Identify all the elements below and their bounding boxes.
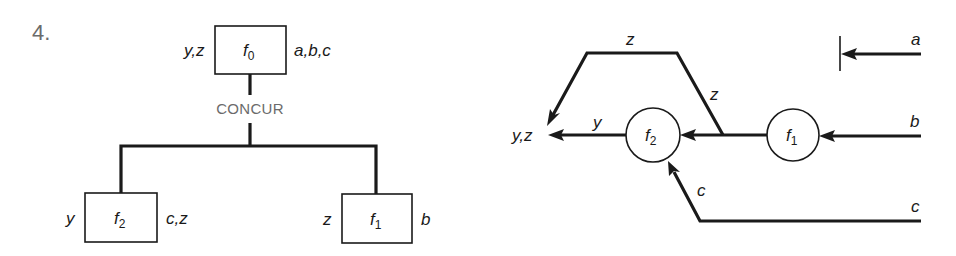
z-diag-label: z: [709, 85, 719, 104]
c-input-path: [674, 172, 921, 221]
child-f2-outputs-label: y: [65, 209, 76, 228]
child-f2-inputs-label: c,z: [166, 209, 188, 228]
hierarchy-tree: f0 y,z a,b,c CONCUR f2 y c,z f1 z b: [65, 26, 430, 243]
c-diag-label: c: [697, 181, 706, 200]
z-top-label: z: [625, 30, 635, 49]
figure-canvas: 4. f0 y,z a,b,c CONCUR f2 y c,z f1 z b y…: [0, 0, 956, 256]
root-inputs-label: a,b,c: [294, 41, 331, 60]
dataflow-diagram: y,z y z z f2 f1 b a c c: [511, 30, 921, 221]
branch-line: [121, 146, 376, 194]
root-outputs-label: y,z: [183, 41, 205, 60]
b-label: b: [910, 112, 919, 131]
output-label: y,z: [511, 126, 533, 145]
child-f1-inputs-label: b: [421, 210, 430, 229]
concur-label: CONCUR: [216, 100, 284, 117]
child-f1-outputs-label: z: [322, 210, 332, 229]
figure-number: 4.: [32, 20, 50, 45]
c-label: c: [911, 197, 920, 216]
a-label: a: [911, 30, 920, 49]
y-edge-label: y: [592, 113, 603, 132]
